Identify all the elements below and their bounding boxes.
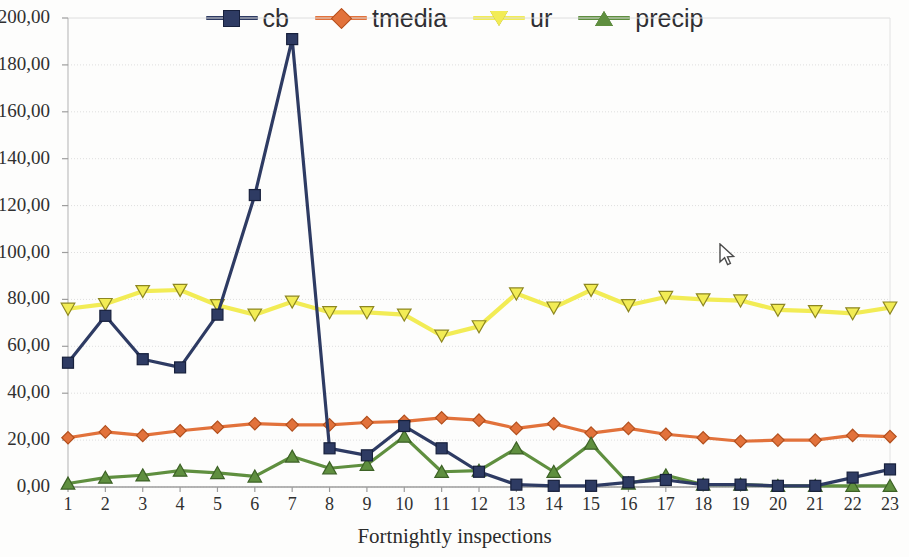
x-tick-label: 21: [806, 494, 824, 515]
x-tick-label: 4: [176, 494, 185, 515]
x-axis-title: Fortnightly inspections: [0, 524, 909, 549]
y-tick-label: 120,00: [0, 194, 58, 216]
x-tick-label: 23: [881, 494, 899, 515]
chart-screenshot: cbtmediaurprecip 0,0020,0040,0060,0080,0…: [0, 0, 909, 557]
x-tick-label: 17: [657, 494, 675, 515]
x-tick-label: 5: [213, 494, 222, 515]
series-ur: [61, 284, 897, 342]
x-tick-label: 22: [844, 494, 862, 515]
y-axis-tick-labels: 0,0020,0040,0060,0080,00100,00120,00140,…: [0, 0, 58, 557]
x-tick-label: 9: [362, 494, 371, 515]
y-tick-label: 100,00: [0, 241, 58, 263]
y-tick-label: 20,00: [0, 428, 58, 450]
chart-canvas: [0, 0, 909, 557]
x-tick-label: 16: [619, 494, 637, 515]
x-tick-label: 15: [582, 494, 600, 515]
x-tick-label: 13: [507, 494, 525, 515]
x-tick-label: 1: [64, 494, 73, 515]
x-tick-label: 10: [395, 494, 413, 515]
y-tick-label: 140,00: [0, 147, 58, 169]
y-tick-label: 40,00: [0, 381, 58, 403]
data-series-layer: [61, 34, 897, 492]
x-tick-label: 8: [325, 494, 334, 515]
x-tick-label: 19: [732, 494, 750, 515]
x-tick-label: 2: [101, 494, 110, 515]
x-tick-label: 6: [250, 494, 259, 515]
y-tick-label: 200,00: [0, 6, 58, 28]
y-tick-label: 180,00: [0, 53, 58, 75]
y-tick-label: 80,00: [0, 287, 58, 309]
x-tick-label: 20: [769, 494, 787, 515]
series-tmedia: [62, 412, 896, 448]
x-tick-label: 14: [545, 494, 563, 515]
y-tick-label: 60,00: [0, 334, 58, 356]
x-tick-label: 12: [470, 494, 488, 515]
x-axis-tick-labels: 1234567891011121314151617181920212223: [0, 494, 909, 522]
y-tick-label: 160,00: [0, 100, 58, 122]
x-tick-label: 7: [288, 494, 297, 515]
x-tick-label: 3: [138, 494, 147, 515]
x-tick-label: 18: [694, 494, 712, 515]
x-tick-label: 11: [433, 494, 450, 515]
plot-area: [0, 0, 909, 557]
